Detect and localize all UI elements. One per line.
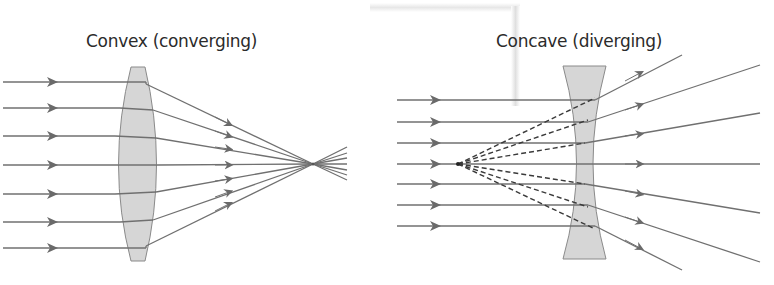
concave-incoming-arrows (430, 95, 441, 231)
convex-lens (119, 67, 157, 261)
convex-title: Convex (converging) (86, 31, 257, 51)
convex-focal-point (311, 162, 314, 165)
concave-lens-diagram (397, 55, 760, 270)
concave-incoming-rays (397, 100, 595, 226)
convex-refracted-rays (146, 84, 347, 246)
concave-lens (563, 66, 606, 259)
convex-lens-diagram (3, 67, 347, 261)
concave-title: Concave (diverging) (496, 31, 662, 51)
concave-refracted-rays (584, 55, 760, 270)
concave-refracted-arrows (625, 73, 640, 248)
concave-virtual-focal-point (456, 162, 460, 166)
